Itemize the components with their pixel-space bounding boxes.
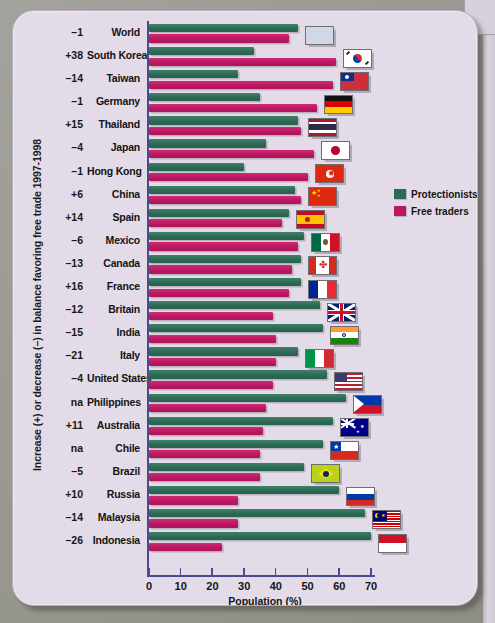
row-bars (149, 255, 301, 274)
flag-russia-icon (346, 487, 375, 506)
bar-free-traders (149, 104, 317, 112)
row-bars (149, 93, 317, 112)
row-bars (149, 186, 301, 205)
row-country-label: Russia (87, 488, 140, 500)
row-country-label: Chile (87, 442, 140, 454)
row-country-label: Britain (87, 303, 140, 315)
flag-india-icon (330, 326, 359, 345)
bar-protectionists (149, 255, 301, 263)
y-axis-line (147, 21, 149, 576)
chart-row: +10Russia (13, 485, 477, 508)
bar-free-traders (149, 81, 333, 89)
flag-united-states-icon (334, 372, 363, 391)
flag-italy-icon (305, 349, 334, 368)
chart-row: –1Hong Kong✹ (13, 162, 477, 185)
row-change-value: na (31, 442, 83, 454)
bar-free-traders (149, 473, 260, 481)
bar-protectionists (149, 486, 339, 494)
row-country-label: South Korea (87, 49, 140, 61)
row-bars (149, 163, 308, 182)
flag-australia-icon: ★★ (340, 418, 369, 437)
row-change-value: +14 (31, 211, 83, 223)
bar-free-traders (149, 450, 260, 458)
bar-free-traders (149, 34, 289, 42)
row-bars (149, 370, 327, 389)
x-axis-tick-label: 10 (166, 580, 196, 592)
row-change-value: –12 (31, 303, 83, 315)
x-axis-tick-label: 20 (197, 580, 227, 592)
bar-protectionists (149, 509, 365, 517)
bar-protectionists (149, 209, 289, 217)
row-bars (149, 440, 323, 459)
chart-card: Increase (+) or decrease (–) in balance … (12, 10, 478, 606)
row-bars (149, 116, 301, 135)
x-axis-tick (243, 568, 245, 576)
row-change-value: na (31, 396, 83, 408)
row-change-value: +15 (31, 118, 83, 130)
bar-free-traders (149, 127, 301, 135)
bar-free-traders (149, 265, 292, 273)
x-axis-tick (370, 568, 372, 576)
row-change-value: +6 (31, 188, 83, 200)
x-axis-tick (211, 568, 213, 576)
chart-row: –5Brazil (13, 462, 477, 485)
flag-chile-icon: ★ (330, 441, 359, 460)
flag-japan-icon (321, 141, 350, 160)
row-change-value: –13 (31, 257, 83, 269)
row-bars (149, 532, 371, 551)
row-country-label: Brazil (87, 465, 140, 477)
bar-free-traders (149, 150, 314, 158)
row-change-value: –4 (31, 372, 83, 384)
bar-free-traders (149, 358, 276, 366)
x-axis-tick (180, 568, 182, 576)
row-bars (149, 394, 346, 413)
row-bars (149, 463, 304, 482)
row-change-value: –5 (31, 465, 83, 477)
row-country-label: Spain (87, 211, 140, 223)
bar-protectionists (149, 186, 295, 194)
chart-row: –4Japan (13, 138, 477, 161)
row-country-label: France (87, 280, 140, 292)
row-country-label: Taiwan (87, 72, 140, 84)
bar-free-traders (149, 196, 301, 204)
legend-swatch (394, 189, 406, 199)
row-country-label: Canada (87, 257, 140, 269)
row-bars (149, 509, 365, 528)
chart-row: +16France (13, 277, 477, 300)
row-bars (149, 486, 339, 505)
x-axis-title: Population (%) (147, 595, 383, 606)
flag-philippines-icon (353, 395, 382, 414)
bar-free-traders (149, 427, 263, 435)
row-change-value: –6 (31, 234, 83, 246)
chart-row: –4United States (13, 369, 477, 392)
row-country-label: United States (87, 372, 140, 384)
row-change-value: –21 (31, 349, 83, 361)
row-bars (149, 347, 298, 366)
legend-swatch (394, 206, 406, 216)
flag-france-icon (308, 280, 337, 299)
chart-row: naChile★ (13, 439, 477, 462)
flag-malaysia-icon: ★ (372, 510, 401, 529)
bar-protectionists (149, 24, 298, 32)
row-country-label: World (87, 26, 140, 38)
legend-label: Protectionists (411, 189, 478, 200)
bar-protectionists (149, 278, 301, 286)
bar-protectionists (149, 532, 371, 540)
row-change-value: +10 (31, 488, 83, 500)
bar-free-traders (149, 242, 298, 250)
row-change-value: –14 (31, 72, 83, 84)
chart-row: +11Australia★★ (13, 416, 477, 439)
chart-row: –1World (13, 23, 477, 46)
bar-free-traders (149, 381, 273, 389)
chart-plot-area: Increase (+) or decrease (–) in balance … (13, 11, 477, 605)
chart-row: –21Italy (13, 346, 477, 369)
chart-row: +15Thailand (13, 115, 477, 138)
row-bars (149, 301, 320, 320)
bar-free-traders (149, 404, 266, 412)
row-bars (149, 278, 301, 297)
row-country-label: China (87, 188, 140, 200)
chart-row: +38South Korea (13, 46, 477, 69)
bar-free-traders (149, 335, 276, 343)
bar-protectionists (149, 417, 333, 425)
chart-row: –26Indonesia (13, 531, 477, 554)
